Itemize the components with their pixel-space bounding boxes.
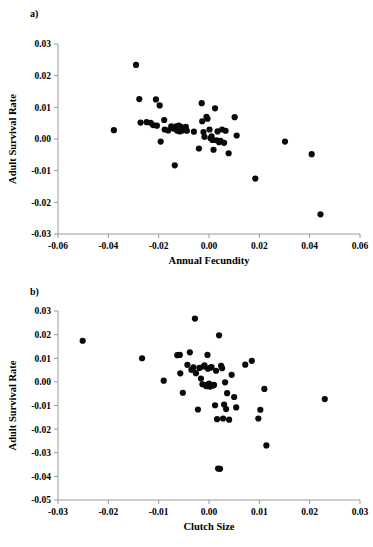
y-tick-label: -0.04 [31,472,51,482]
data-point [195,406,201,412]
data-point [211,382,217,388]
y-tick-label: 0.02 [34,330,51,340]
x-axis-title: Annual Fecundity [169,255,251,266]
data-point [204,352,210,358]
data-point [196,145,202,151]
data-point [133,62,139,68]
scatter-panel-b: b) -0.05-0.04-0.03-0.02-0.010.000.010.02… [0,278,373,547]
data-point [219,365,225,371]
data-point [192,315,198,321]
x-tick-label: -0.06 [48,241,68,251]
x-tick-label: 0.00 [201,507,218,517]
data-point [201,134,207,140]
data-point [187,349,193,355]
data-point [255,415,261,421]
y-tick-label: 0.02 [34,71,51,81]
data-point [157,102,163,108]
data-point [177,352,183,358]
x-tick-label: 0.02 [251,241,268,251]
y-tick-label: 0.01 [34,103,51,113]
data-point [213,368,219,374]
x-axis-title: Clutch Size [183,521,234,532]
x-tick-label: -0.04 [98,241,118,251]
data-point [226,150,232,156]
data-point [220,415,226,421]
data-point [309,151,315,157]
scatter-plot-clutch-size: -0.05-0.04-0.03-0.02-0.010.000.010.020.0… [0,278,373,547]
x-tick-label: 0.00 [201,241,218,251]
x-tick-label: -0.03 [48,507,68,517]
x-tick-label: 0.04 [301,241,318,251]
data-point [223,406,229,412]
data-point [204,116,210,122]
data-point [153,96,159,102]
data-point [191,129,197,135]
x-tick-label: 0.01 [251,507,268,517]
x-tick-label: -0.02 [149,241,169,251]
data-point [198,375,204,381]
data-point [172,162,178,168]
data-point [184,128,190,134]
data-point [229,372,235,378]
scatter-panel-a: a) -0.03-0.02-0.010.000.010.020.03-0.06-… [0,0,373,278]
y-tick-label: -0.03 [31,448,51,458]
data-point [137,119,143,125]
data-point [252,175,258,181]
data-point [317,211,323,217]
data-point [224,390,230,396]
data-point [199,100,205,106]
y-tick-label: 0.03 [34,306,51,316]
data-point [222,379,228,385]
data-point [193,370,199,376]
y-tick-label: 0.00 [34,377,51,387]
y-tick-label: -0.03 [31,229,51,239]
data-point [161,378,167,384]
y-tick-label: -0.02 [31,425,51,435]
data-point [216,332,222,338]
data-point [154,123,160,129]
data-point [242,362,248,368]
data-point [177,370,183,376]
data-point [212,402,218,408]
data-point [136,96,142,102]
x-tick-label: -0.02 [98,507,118,517]
data-point [234,132,240,138]
data-point [158,138,164,144]
x-tick-label: -0.01 [149,507,169,517]
y-tick-label: -0.05 [31,495,51,505]
data-point [212,105,218,111]
y-tick-label: -0.01 [31,401,51,411]
data-point [232,114,238,120]
data-point [190,364,196,370]
data-point [184,362,190,368]
y-axis-title: Adult Survival Rate [7,360,18,450]
data-point [139,355,145,361]
data-point [214,416,220,422]
y-tick-label: 0.03 [34,39,51,49]
data-point [226,417,232,423]
data-point [233,404,239,410]
x-tick-label: 0.03 [352,507,369,517]
data-point [221,140,227,146]
data-point [111,127,117,133]
data-point [231,394,237,400]
data-point [282,138,288,144]
x-tick-label: 0.02 [301,507,318,517]
data-point [206,126,212,132]
data-point [322,396,328,402]
data-point [223,128,229,134]
scatter-plot-annual-fecundity: -0.03-0.02-0.010.000.010.020.03-0.06-0.0… [0,0,373,278]
data-point [161,117,167,123]
y-tick-label: 0.00 [34,134,51,144]
x-tick-label: 0.06 [352,241,369,251]
data-point [210,147,216,153]
data-point [257,407,263,413]
data-point [263,442,269,448]
y-tick-label: -0.01 [31,166,51,176]
y-tick-label: 0.01 [34,354,51,364]
data-point [80,338,86,344]
data-point [180,390,186,396]
data-point [217,466,223,472]
data-point [249,358,255,364]
y-tick-label: -0.02 [31,198,51,208]
